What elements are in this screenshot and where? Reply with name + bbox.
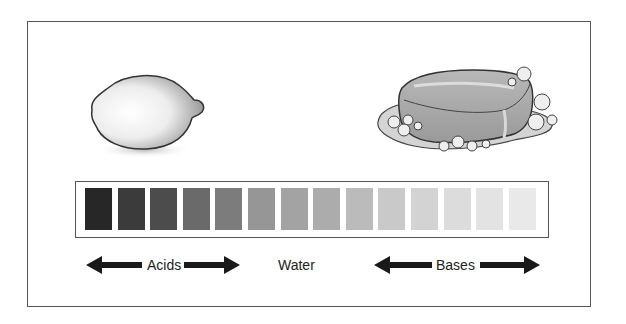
ph-scale-bar — [75, 181, 549, 238]
bases-label: Bases — [436, 257, 475, 273]
ph-swatch-2 — [118, 188, 145, 230]
bases-right-arrow-icon — [480, 256, 540, 274]
water-label: Water — [278, 257, 315, 273]
bases-left-arrow-icon — [374, 256, 432, 274]
ph-swatch-14 — [509, 188, 536, 230]
lemon-illustration — [84, 70, 214, 165]
ph-swatch-1 — [85, 188, 112, 230]
ph-swatch-9 — [346, 188, 373, 230]
ph-swatch-3 — [150, 188, 177, 230]
acids-right-arrow-icon — [184, 256, 240, 274]
ph-swatch-13 — [476, 188, 503, 230]
ph-swatch-10 — [378, 188, 405, 230]
acids-left-arrow-icon — [86, 256, 142, 274]
ph-swatch-5 — [215, 188, 242, 230]
ph-swatch-11 — [411, 188, 438, 230]
ph-swatch-6 — [248, 188, 275, 230]
ph-swatch-4 — [183, 188, 210, 230]
ph-swatch-12 — [444, 188, 471, 230]
ph-swatch-8 — [313, 188, 340, 230]
soap-illustration — [374, 60, 564, 160]
ph-swatch-7 — [281, 188, 308, 230]
acids-label: Acids — [147, 257, 181, 273]
